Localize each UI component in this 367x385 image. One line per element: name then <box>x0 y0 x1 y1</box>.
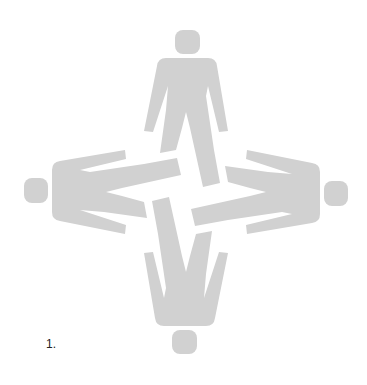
figure-caption: 1. <box>46 337 56 351</box>
pinwheel-figures-logo <box>0 0 367 385</box>
